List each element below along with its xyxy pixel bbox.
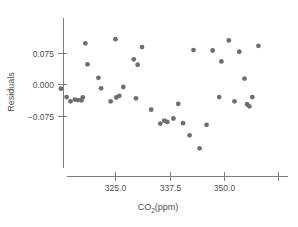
data-point — [85, 62, 90, 67]
data-point — [108, 99, 113, 104]
data-point — [187, 133, 192, 138]
data-point — [210, 48, 215, 53]
data-point — [171, 116, 176, 121]
data-point — [59, 86, 64, 91]
data-point — [99, 86, 104, 91]
data-point — [191, 48, 196, 53]
y-tick-label-0: 0.075 — [33, 49, 55, 59]
data-point — [83, 41, 88, 46]
data-point — [204, 122, 209, 127]
data-point — [80, 95, 85, 100]
data-point — [96, 75, 101, 80]
data-point — [256, 43, 261, 48]
data-point — [181, 121, 186, 126]
data-point — [237, 49, 242, 54]
data-point — [158, 121, 163, 126]
data-point — [226, 38, 231, 43]
data-points-group — [59, 37, 261, 151]
data-point — [247, 104, 252, 109]
data-point — [250, 95, 255, 100]
data-point — [176, 101, 181, 106]
data-point — [135, 62, 140, 67]
y-tick-label-2: −0.075 — [28, 112, 55, 122]
scatter-plot-figure: 0.075 0.000 −0.075 325.0 337.5 350.0 CO2… — [0, 0, 298, 227]
data-point — [113, 37, 118, 42]
y-axis-ticks — [58, 54, 67, 117]
data-point — [121, 85, 126, 90]
data-point — [217, 95, 222, 100]
data-point — [219, 59, 224, 64]
x-tick-label-1: 337.5 — [160, 183, 182, 193]
x-tick-label-2: 350.0 — [214, 183, 236, 193]
x-axis-title-tail: (ppm) — [155, 202, 179, 212]
data-point — [134, 96, 139, 101]
data-point — [140, 45, 145, 50]
x-axis-title-base: CO — [138, 202, 152, 212]
data-point — [242, 76, 247, 81]
plot-canvas: 0.075 0.000 −0.075 325.0 337.5 350.0 CO2… — [0, 0, 298, 227]
x-tick-label-0: 325.0 — [105, 183, 127, 193]
x-axis-title: CO2(ppm) — [138, 202, 179, 214]
y-axis-title: Residuals — [6, 72, 16, 112]
data-point — [117, 93, 122, 98]
data-point — [232, 99, 237, 104]
data-point — [68, 99, 73, 104]
data-point — [165, 119, 170, 124]
data-point — [197, 146, 202, 151]
y-tick-label-1: 0.000 — [33, 80, 55, 90]
data-point — [131, 57, 136, 62]
data-point — [149, 107, 154, 112]
data-point — [64, 95, 69, 100]
